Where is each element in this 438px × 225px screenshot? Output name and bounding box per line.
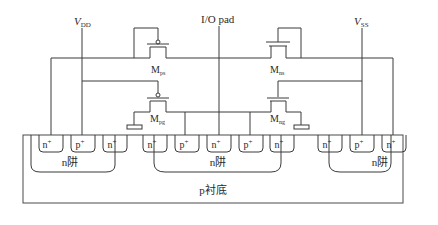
mps-label: Mps: [151, 64, 166, 76]
transistor-mpg: [127, 98, 271, 135]
vdd-label: VDD: [74, 15, 91, 29]
vss-label: VSS: [354, 15, 369, 29]
vdd-to-mpg-gate: [82, 81, 158, 93]
transistor-mps: [134, 28, 169, 58]
vss-to-mng-gate: [278, 81, 362, 97]
nwell-right-label: n阱: [372, 155, 389, 168]
mns-label: Mns: [270, 64, 285, 76]
mpg-label: Mpg: [150, 113, 165, 125]
io-pad-label: I/O pad: [201, 13, 235, 25]
transistor-mns: [266, 28, 301, 58]
nwell-center-label: n阱: [210, 155, 227, 168]
nwell-left-label: n阱: [62, 155, 79, 168]
io-esd-cross-section-diagram: p衬底 n阱 n阱 n阱 n+ p+ n+ n+ p+ n+ p+ n+ n+ …: [0, 0, 438, 225]
substrate-label: p衬底: [199, 183, 227, 196]
mng-label: Mng: [270, 113, 285, 125]
